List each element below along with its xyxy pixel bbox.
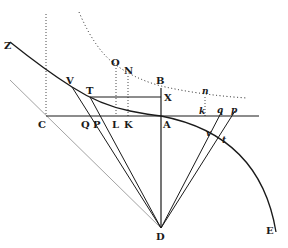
label-k: K: [124, 119, 133, 130]
label-n-small: n: [202, 86, 209, 96]
label-z: Z: [4, 40, 11, 51]
geometric-figure: Z V T O N B X C Q P L K A n k q p v t D …: [0, 0, 288, 248]
label-q: Q: [81, 119, 90, 130]
label-q-small: q: [217, 105, 223, 115]
label-a: A: [162, 119, 171, 130]
label-x: X: [164, 92, 172, 103]
label-e: E: [266, 225, 274, 236]
line-pd: [161, 111, 235, 228]
label-b: B: [156, 75, 164, 86]
arc-ae: [161, 116, 276, 232]
label-d: D: [156, 231, 165, 242]
label-v: V: [65, 75, 74, 86]
label-o: O: [111, 57, 120, 68]
label-k-small: k: [199, 106, 205, 116]
label-p-small: p: [231, 105, 238, 115]
label-p: P: [93, 119, 101, 130]
line-td: [90, 97, 161, 228]
asymptote-line: [10, 80, 161, 228]
label-v-small: v: [206, 128, 212, 138]
label-n: N: [124, 65, 133, 76]
label-l: L: [112, 119, 119, 130]
label-c: C: [38, 119, 46, 130]
curve-zva: [10, 42, 161, 116]
label-t: T: [86, 85, 94, 96]
